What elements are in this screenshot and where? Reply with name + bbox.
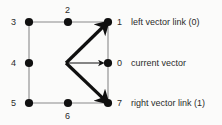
- node-number-label: 2: [65, 6, 70, 15]
- legend-label-left: left vector link (0): [131, 18, 200, 27]
- grid-node-0: [104, 59, 112, 67]
- node-number-label: 0: [117, 59, 122, 68]
- grid-node-3: [25, 18, 33, 26]
- grid-node-5: [25, 99, 33, 107]
- grid-node-6: [64, 99, 72, 107]
- grid-node-7: [104, 99, 112, 107]
- grid-node-1: [104, 18, 112, 26]
- grid-node-2: [64, 18, 72, 26]
- vector-arrow-left-vector: [66, 25, 104, 63]
- vector-link-diagram: 01234567 left vector link (0)current vec…: [0, 0, 222, 125]
- node-number-label: 7: [117, 99, 122, 108]
- legend-label-right: right vector link (1): [131, 99, 205, 108]
- grid-node-4: [25, 59, 33, 67]
- node-number-label: 3: [11, 18, 16, 27]
- node-number-label: 4: [11, 59, 16, 68]
- node-number-label: 6: [65, 112, 70, 121]
- node-number-label: 5: [11, 99, 16, 108]
- node-number-label: 1: [117, 18, 122, 27]
- vector-arrow-right-vector: [66, 63, 104, 100]
- vector-arrow-layer: [66, 25, 104, 99]
- legend-label-current: current vector: [131, 59, 186, 68]
